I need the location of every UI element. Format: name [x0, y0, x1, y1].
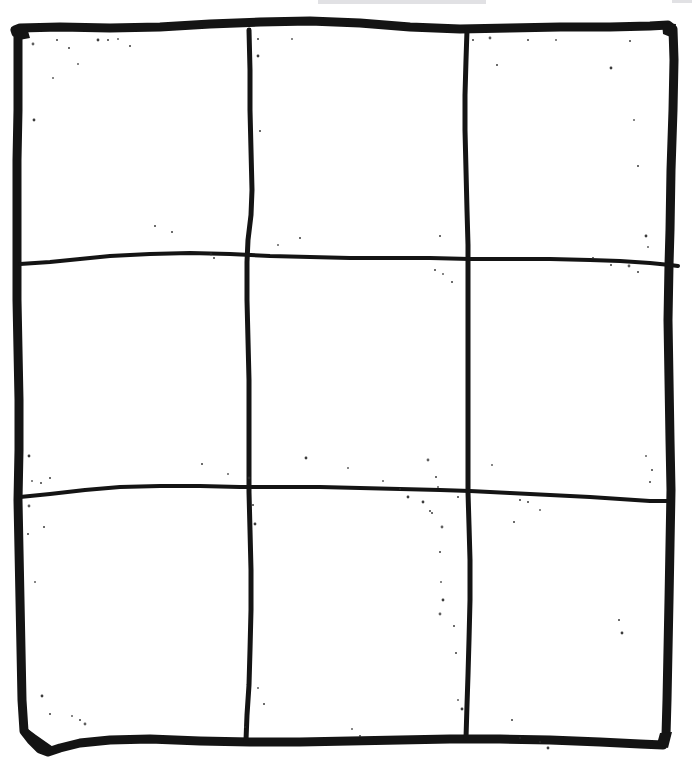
paper-speck	[592, 257, 594, 259]
paper-speck	[248, 477, 251, 480]
scanner-smudge-top	[318, 0, 486, 4]
paper-speck	[519, 737, 521, 739]
cell-middle-center[interactable]	[254, 262, 464, 488]
grid-canvas	[0, 0, 692, 762]
cell-bottom-right[interactable]	[472, 496, 665, 736]
cell-bottom-center[interactable]	[254, 495, 464, 737]
paper-speck	[399, 488, 401, 490]
cell-middle-right[interactable]	[472, 263, 666, 493]
cell-top-center[interactable]	[254, 30, 464, 256]
scanner-edge-top-right	[672, 0, 692, 3]
cell-bottom-left[interactable]	[22, 500, 246, 736]
cell-middle-left[interactable]	[20, 266, 246, 488]
paper-speck	[213, 257, 215, 259]
paper-speck	[539, 741, 541, 743]
cell-top-left[interactable]	[22, 33, 246, 256]
cell-top-right[interactable]	[472, 30, 667, 257]
paper-speck	[547, 747, 550, 750]
